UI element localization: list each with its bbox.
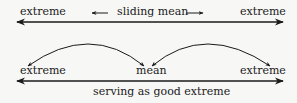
- mean-label: mean: [136, 65, 167, 77]
- left-arc-arrow-icon: [28, 44, 144, 66]
- diagram: extreme sliding mean extreme extreme mea…: [0, 0, 297, 103]
- sliding-mean-label: sliding mean: [117, 6, 188, 18]
- top-right-extreme-label: extreme: [240, 6, 286, 18]
- right-arc-arrow-icon: [152, 44, 270, 66]
- caption: serving as good extreme: [93, 86, 230, 98]
- bottom-right-extreme-label: extreme: [240, 65, 286, 77]
- top-left-extreme-label: extreme: [20, 6, 66, 18]
- bottom-left-extreme-label: extreme: [20, 65, 66, 77]
